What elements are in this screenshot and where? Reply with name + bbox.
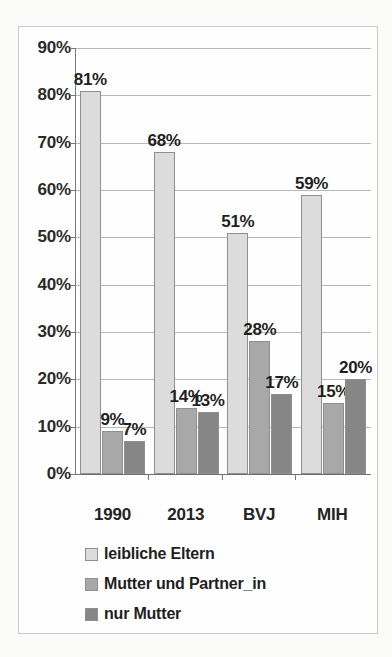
y-axis-tick-label: 30% (38, 322, 71, 342)
chart-page: 90%80%70%60%50%40%30%20%10%0% 81%9%7%68%… (0, 0, 392, 657)
bar[interactable]: 17% (271, 394, 292, 474)
x-axis-baseline (75, 474, 371, 475)
x-axis-category-label: 1990 (76, 499, 149, 533)
legend-item[interactable]: Mutter und Partner_in (85, 575, 377, 593)
bar[interactable]: 13% (198, 412, 219, 474)
bar[interactable]: 14% (176, 408, 197, 474)
bar-value-label: 28% (243, 320, 276, 340)
y-axis-tick-label: 0% (47, 464, 71, 484)
bar[interactable]: 51% (227, 233, 248, 474)
legend-swatch-icon (85, 548, 98, 561)
bar-value-label: 7% (122, 420, 146, 440)
legend-label: nur Mutter (104, 605, 181, 623)
bar-group: 51%28%17% (224, 27, 298, 474)
y-axis-tick-label: 40% (38, 275, 71, 295)
x-axis-category-label: 2013 (149, 499, 222, 533)
bar[interactable]: 28% (249, 341, 270, 474)
category-separator-tick (295, 474, 296, 480)
x-axis-category-label: MIH (296, 499, 369, 533)
y-axis-tick-label: 20% (38, 369, 71, 389)
bar-value-label: 17% (265, 373, 298, 393)
legend-label: leibliche Eltern (104, 545, 215, 563)
bar-value-label: 13% (192, 391, 225, 411)
bar-value-label: 81% (74, 70, 107, 90)
chart-legend: leibliche ElternMutter und Partner_innur… (19, 545, 377, 623)
x-axis-labels: 19902013BVJMIH (76, 499, 369, 533)
bar[interactable]: 9% (102, 431, 123, 474)
category-separator-tick (222, 474, 223, 480)
y-axis-tick-label: 60% (38, 180, 71, 200)
bar-group: 59%15%20% (297, 27, 371, 474)
axis-area: 81%9%7%68%14%13%51%28%17%59%15%20% (75, 27, 371, 497)
bar-value-label: 51% (221, 212, 254, 232)
legend-label: Mutter und Partner_in (104, 575, 266, 593)
y-axis-tick-label: 10% (38, 417, 71, 437)
bar[interactable]: 81% (80, 91, 101, 474)
y-axis-labels: 90%80%70%60%50%40%30%20%10%0% (19, 27, 75, 497)
y-axis-tick-label: 70% (38, 133, 71, 153)
bar-value-label: 68% (148, 131, 181, 151)
bar-group: 81%9%7% (76, 27, 150, 474)
chart-frame: 90%80%70%60%50%40%30%20%10%0% 81%9%7%68%… (18, 26, 378, 634)
bar[interactable]: 68% (154, 152, 175, 474)
legend-item[interactable]: nur Mutter (85, 605, 377, 623)
legend-swatch-icon (85, 608, 98, 621)
plot-area: 90%80%70%60%50%40%30%20%10%0% 81%9%7%68%… (19, 27, 379, 497)
bar-value-label: 20% (339, 358, 372, 378)
y-axis-tick-label: 80% (38, 85, 71, 105)
bar[interactable]: 59% (301, 195, 322, 474)
y-axis-tick-label: 50% (38, 227, 71, 247)
legend-swatch-icon (85, 578, 98, 591)
bar-value-label: 9% (100, 410, 124, 430)
y-axis-tick (70, 474, 76, 475)
bar[interactable]: 15% (323, 403, 344, 474)
bar-groups: 81%9%7%68%14%13%51%28%17%59%15%20% (76, 27, 371, 474)
category-separator-tick (148, 474, 149, 480)
bar[interactable]: 20% (345, 379, 366, 474)
y-axis-tick-label: 90% (38, 38, 71, 58)
x-axis-category-label: BVJ (223, 499, 296, 533)
bar-value-label: 59% (295, 174, 328, 194)
legend-item[interactable]: leibliche Eltern (85, 545, 377, 563)
bar[interactable]: 7% (124, 441, 145, 474)
bar-group: 68%14%13% (150, 27, 224, 474)
